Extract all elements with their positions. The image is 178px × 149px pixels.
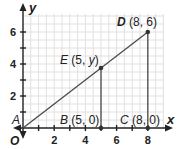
label-B: B (5, 0) — [60, 113, 99, 127]
y-tick-6: 6 — [10, 26, 16, 38]
coordinate-diagram: 2 4 6 8 2 4 6 y x O A B (5, 0) C (8, 0) … — [0, 0, 178, 149]
label-A: A — [11, 113, 20, 127]
x-tick-2: 2 — [51, 134, 57, 146]
y-axis-label: y — [28, 0, 37, 15]
label-D: D (8, 6) — [117, 15, 157, 29]
x-tick-8: 8 — [145, 134, 151, 146]
origin-label: O — [10, 134, 20, 148]
label-C: C (8, 0) — [120, 113, 160, 127]
x-tick-4: 4 — [82, 134, 89, 146]
point-E — [99, 66, 104, 71]
grid — [23, 14, 164, 128]
label-E: E (5, y) — [60, 53, 99, 67]
point-B — [99, 126, 104, 131]
x-axis-label: x — [166, 112, 175, 127]
y-tick-4: 4 — [10, 58, 17, 70]
point-D — [146, 30, 151, 35]
x-tick-6: 6 — [114, 134, 120, 146]
y-tick-2: 2 — [10, 90, 16, 102]
